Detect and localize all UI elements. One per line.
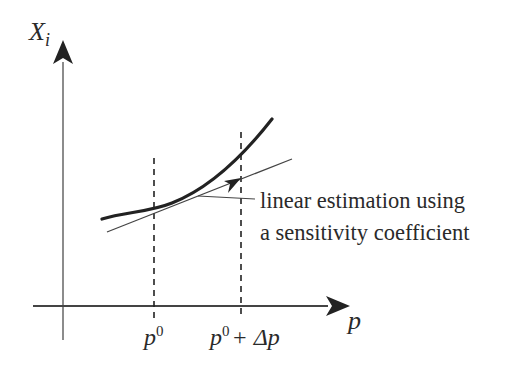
x-axis — [33, 296, 350, 316]
tick-label-p0-plus-dp: p0+ Δp — [210, 325, 280, 349]
tick-p0dp-rest: + Δp — [232, 324, 280, 350]
y-axis-arrow-icon — [53, 40, 73, 64]
tangent-arrow-icon — [224, 178, 241, 193]
y-axis — [53, 40, 73, 340]
diagram-canvas — [0, 0, 531, 367]
tick-p0dp-sup: 0 — [222, 323, 230, 339]
y-axis-label-subscript: i — [45, 30, 50, 50]
annotation-leader-line — [198, 196, 255, 199]
annotation-line-2: a sensitivity coefficient — [260, 222, 470, 245]
annotation-line-1: linear estimation using — [260, 190, 465, 213]
x-axis-arrow-icon — [326, 296, 350, 316]
response-curve — [102, 119, 272, 219]
tick-p0dp-base: p — [210, 324, 222, 350]
x-axis-label: p — [348, 308, 361, 334]
tick-label-p0: p0 — [144, 325, 164, 349]
tick-p0-sup: 0 — [156, 323, 164, 339]
tick-p0-base: p — [144, 324, 156, 350]
sensitivity-diagram: Xi p p0 p0+ Δp linear estimation using a… — [0, 0, 531, 367]
y-axis-label: Xi — [29, 19, 50, 45]
y-axis-label-main: X — [29, 17, 45, 46]
